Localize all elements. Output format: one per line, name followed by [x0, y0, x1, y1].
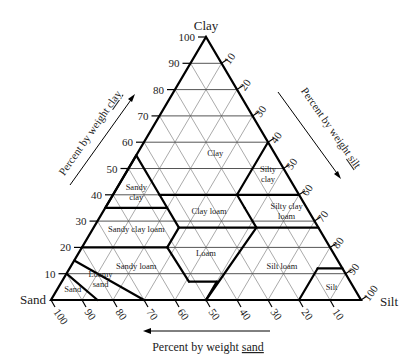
sand-tick-label: 60: [175, 306, 191, 322]
region-label-sandy-loam: Sandy loam: [116, 261, 157, 271]
silt-tick-label: 60: [299, 182, 315, 198]
silt-tick-label: 70: [314, 208, 330, 224]
clay-vertex-label: Clay: [194, 18, 219, 33]
clay-tick-label: 30: [76, 215, 88, 227]
sand-tick-label: 70: [144, 306, 160, 322]
silt-tick-label: 100: [361, 282, 381, 303]
sand-tick-label: 80: [113, 306, 129, 322]
silt-tick-label: 50: [283, 155, 299, 171]
sand-tick-label: 30: [268, 306, 284, 322]
silt-tick-label: 30: [252, 103, 268, 119]
soil-texture-triangle: 1020304050607080901001020304050607080901…: [0, 0, 416, 361]
sand-vertex-label: Sand: [20, 292, 47, 307]
arrow-down-icon: [334, 171, 341, 179]
sand-tick-label: 50: [206, 306, 222, 322]
clay-tick-label: 60: [122, 136, 134, 148]
region-label-sand: Sand: [64, 284, 82, 294]
region-label-loamy-sand: Loamysand: [89, 269, 114, 289]
region-label-silty-clay: Siltyclay: [260, 164, 277, 184]
region-label-silty-clay-loam: Silty clayloam: [270, 201, 303, 221]
sand-tick-label: 40: [237, 306, 253, 322]
sand-tick-label: 90: [82, 306, 98, 322]
silt-tick-label: 90: [345, 261, 361, 277]
arrow-up-icon: [128, 94, 135, 102]
region-label-silt-loam: Silt loam: [266, 261, 297, 271]
clay-tick-label: 20: [60, 241, 72, 253]
silt-tick-label: 80: [330, 234, 346, 250]
region-label-silt: Silt: [326, 282, 338, 292]
region-label-clay-loam: Clay loam: [192, 206, 228, 216]
silt-tick-label: 10: [221, 50, 237, 66]
sand-tick-label: 10: [330, 306, 346, 322]
sand-tick-label: 20: [299, 306, 315, 322]
sand-axis-title: Percent by weight sand: [143, 328, 270, 354]
clay-tick-label: 40: [91, 189, 103, 201]
clay-tick-label: 70: [138, 110, 150, 122]
silt-tick-label: 40: [268, 129, 284, 145]
silt-axis-title-text: Percent by weight silt: [299, 85, 364, 170]
clay-tick-label: 90: [169, 57, 181, 69]
region-label-clay: Clay: [207, 148, 224, 158]
region-label-sandy-clay-loam: Sandy clay loam: [108, 224, 165, 234]
arrow-left-icon: [143, 328, 151, 334]
clay-tick-label: 50: [107, 163, 119, 175]
region-label-loam: Loam: [196, 248, 216, 258]
sand-tick-label: 100: [51, 306, 71, 327]
region-label-sandy-clay: Sandyclay: [126, 182, 148, 202]
sand-axis-title-text: Percent by weight sand: [152, 340, 264, 354]
clay-tick-label: 80: [153, 84, 165, 96]
silt-vertex-label: Silt: [380, 294, 398, 309]
clay-tick-label: 10: [45, 268, 57, 280]
silt-tick-label: 20: [237, 76, 253, 92]
